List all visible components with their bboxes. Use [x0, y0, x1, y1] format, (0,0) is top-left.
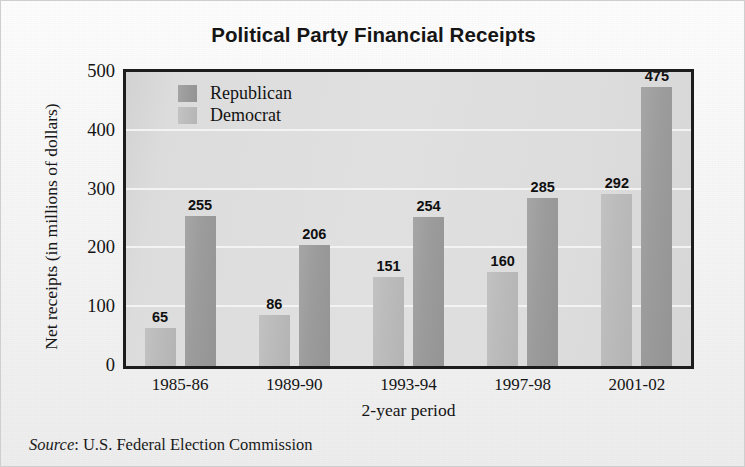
legend-label-republican: Republican — [210, 84, 292, 102]
bar-value-label: 255 — [188, 197, 212, 213]
y-axis-tick-300: 300 — [63, 179, 115, 200]
bar-republican-1997-98: 285 — [527, 198, 558, 366]
x-axis-tick-1993-94: 1993-94 — [349, 375, 469, 395]
bar-value-label: 86 — [266, 296, 282, 312]
x-axis-tick-1989-90: 1989-90 — [234, 375, 354, 395]
x-axis-tick-1997-98: 1997-98 — [463, 375, 583, 395]
bar-republican-1985-86: 255 — [185, 216, 216, 366]
bar-republican-1993-94: 254 — [413, 217, 444, 366]
bar-value-label: 65 — [152, 309, 168, 325]
bar-value-label: 254 — [416, 198, 440, 214]
bar-democrat-1993-94: 151 — [373, 277, 404, 366]
y-axis-title: Net receipts (in millions of dollars) — [41, 77, 62, 377]
bar-democrat-1989-90: 86 — [259, 315, 290, 366]
bar-group: 160285 — [487, 72, 558, 366]
chart-figure: Political Party Financial Receipts Net r… — [0, 0, 745, 467]
bar-value-label: 151 — [376, 258, 400, 274]
y-axis-tick-100: 100 — [63, 296, 115, 317]
y-axis-tick-400: 400 — [63, 120, 115, 141]
source-note: Source: U.S. Federal Election Commission — [29, 435, 313, 455]
legend-swatch-democrat-icon — [178, 107, 197, 124]
chart-title: Political Party Financial Receipts — [1, 23, 745, 47]
legend-swatch-republican-icon — [178, 85, 197, 102]
bar-republican-2001-02: 475 — [641, 87, 672, 366]
x-axis-tick-1985-86: 1985-86 — [120, 375, 240, 395]
bar-value-label: 292 — [605, 175, 629, 191]
legend-label-democrat: Democrat — [210, 106, 281, 124]
source-text: : U.S. Federal Election Commission — [74, 435, 312, 454]
source-label: Source — [29, 435, 74, 454]
y-axis-tick-0: 0 — [63, 355, 115, 376]
bar-group: 292475 — [601, 72, 672, 366]
legend: Republican Democrat — [178, 82, 292, 126]
bar-group: 151254 — [373, 72, 444, 366]
y-axis-tick-500: 500 — [63, 61, 115, 82]
x-axis-title: 2-year period — [123, 400, 694, 421]
bar-democrat-1997-98: 160 — [487, 272, 518, 366]
bar-value-label: 206 — [302, 226, 326, 242]
bar-value-label: 160 — [491, 253, 515, 269]
bar-republican-1989-90: 206 — [299, 245, 330, 366]
legend-item-republican: Republican — [178, 82, 292, 104]
legend-item-democrat: Democrat — [178, 104, 292, 126]
y-axis-tick-200: 200 — [63, 237, 115, 258]
plot-area: 6525586206151254160285292475 Republican … — [123, 69, 694, 369]
bar-value-label: 475 — [645, 69, 669, 84]
x-axis-tick-2001-02: 2001-02 — [577, 375, 697, 395]
bar-value-label: 285 — [531, 179, 555, 195]
bar-democrat-2001-02: 292 — [601, 194, 632, 366]
bar-democrat-1985-86: 65 — [145, 328, 176, 366]
